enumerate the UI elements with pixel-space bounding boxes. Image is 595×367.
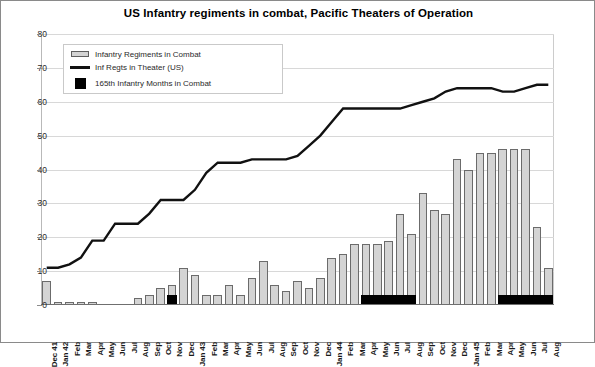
x-axis-tick-label: Sep: [289, 342, 298, 356]
x-axis-tick-label: Jan 43: [198, 342, 207, 366]
x-axis-tick-label: Sep: [426, 342, 435, 356]
y-axis-tick-label: 80: [19, 29, 47, 39]
x-axis-tick-label: Feb: [346, 342, 355, 356]
y-axis-tick-mark: [37, 305, 42, 306]
x-axis-tick-label: Apr: [506, 342, 515, 355]
x-axis-tick-label: Feb: [210, 342, 219, 356]
x-axis-tick-label: Mar: [358, 342, 367, 356]
x-axis-labels: Dec 41Jan 42FebMarAprMayJunJulAugSepOctN…: [41, 307, 554, 344]
x-axis-tick-label: Mar: [84, 342, 93, 356]
x-axis-tick-label: Jun: [255, 342, 264, 356]
legend-label: Inf Regts in Theater (US): [95, 63, 184, 72]
x-axis-tick-label: Jan 44: [335, 342, 344, 366]
x-axis-tick-label: Dec: [460, 342, 469, 356]
y-axis-tick-label: 50: [19, 131, 47, 141]
y-axis-tick-label: 0: [19, 300, 47, 310]
x-axis-tick-label: Aug: [278, 342, 287, 357]
y-axis-tick-mark: [37, 170, 42, 171]
y-axis-tick-mark: [37, 102, 42, 103]
x-axis-tick-label: Nov: [449, 342, 458, 357]
x-axis-baseline: [41, 304, 554, 305]
y-axis-tick-mark: [37, 34, 42, 35]
x-axis-tick-label: Feb: [73, 342, 82, 356]
x-axis-tick-label: Jun: [529, 342, 538, 356]
x-axis-tick-label: Aug: [141, 342, 150, 357]
y-axis-tick-label: 40: [19, 165, 47, 175]
x-axis-tick-label: Nov: [175, 342, 184, 357]
black-square-swatch-icon: [69, 77, 91, 89]
x-axis-tick-label: Sep: [153, 342, 162, 356]
x-axis-tick-label: May: [244, 342, 253, 357]
black-line-swatch-icon: [69, 61, 91, 73]
x-axis-tick-label: Jul: [130, 342, 139, 353]
x-axis-tick-label: Apr: [232, 342, 241, 355]
x-axis-tick-label: Jul: [267, 342, 276, 353]
legend-item-inf-regts-in-theater: Inf Regts in Theater (US): [69, 61, 277, 73]
y-axis-tick-mark: [37, 203, 42, 204]
y-axis-tick-label: 30: [19, 198, 47, 208]
x-axis-tick-label: May: [517, 342, 526, 357]
x-axis-tick-label: Aug: [415, 342, 424, 357]
x-axis-tick-label: Mar: [221, 342, 230, 356]
x-axis-tick-label: Aug: [552, 342, 561, 357]
x-axis-tick-label: Jul: [403, 342, 412, 353]
legend-item-infantry-regiments-in-combat: Infantry Regiments in Combat: [69, 48, 277, 60]
gray-bar-swatch-icon: [69, 48, 91, 60]
x-axis-tick-label: Jun: [392, 342, 401, 356]
x-axis-tick-label: Apr: [96, 342, 105, 355]
x-axis-tick-label: Dec 41: [50, 342, 59, 367]
y-axis-tick-label: 70: [19, 63, 47, 73]
x-axis-tick-label: Jan 42: [61, 342, 70, 366]
inf-regts-in-theater-line: [47, 85, 549, 268]
legend-label: Infantry Regiments in Combat: [95, 50, 201, 59]
x-axis-tick-label: Dec: [187, 342, 196, 356]
legend-item-165th-infantry-months-in-combat: 165th Infantry Months in Combat: [69, 77, 277, 89]
chart-title: US Infantry regiments in combat, Pacific…: [1, 7, 595, 19]
y-axis-tick-label: 60: [19, 97, 47, 107]
x-axis-tick-label: Jun: [118, 342, 127, 356]
x-axis-tick-label: Jul: [540, 342, 549, 353]
y-axis-tick-label: 20: [19, 232, 47, 242]
x-axis-tick-label: Jan 45: [472, 342, 481, 366]
x-axis-tick-label: May: [381, 342, 390, 357]
x-axis-tick-label: Oct: [301, 342, 310, 355]
x-axis-tick-label: Oct: [438, 342, 447, 355]
x-axis-tick-label: Oct: [164, 342, 173, 355]
y-axis-tick-label: 10: [19, 266, 47, 276]
y-axis-tick-mark: [37, 237, 42, 238]
x-axis-tick-label: Nov: [312, 342, 321, 357]
x-axis-tick-label: Mar: [495, 342, 504, 356]
x-axis-tick-label: Dec: [324, 342, 333, 356]
x-axis-tick-label: May: [107, 342, 116, 357]
y-axis-tick-mark: [37, 136, 42, 137]
legend-label: 165th Infantry Months in Combat: [95, 79, 211, 88]
x-axis-tick-label: Apr: [369, 342, 378, 355]
chart-legend: Infantry Regiments in Combat Inf Regts i…: [63, 44, 283, 94]
y-axis-tick-mark: [37, 271, 42, 272]
x-axis-tick-label: Feb: [483, 342, 492, 356]
y-axis-tick-mark: [37, 68, 42, 69]
